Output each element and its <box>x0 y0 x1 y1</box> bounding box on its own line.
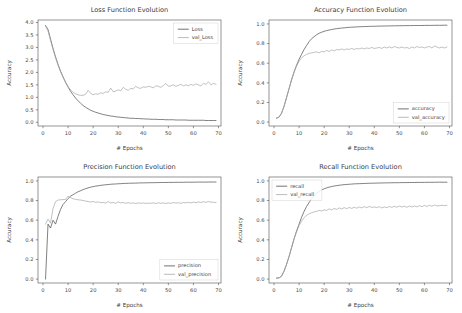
y-tick-label: 0.6 <box>256 217 264 223</box>
legend-label-val_accuracy: val_accuracy <box>412 114 445 121</box>
x-tick-label: 70 <box>215 130 222 136</box>
panel-recall: Recall Function Evolution010203040506070… <box>231 157 462 313</box>
chart-title: Precision Function Evolution <box>83 163 175 171</box>
legend-label-val_precision: val_precision <box>178 271 211 278</box>
x-tick-label: 0 <box>272 130 275 136</box>
x-tick-label: 60 <box>190 130 197 136</box>
legend-label-precision: precision <box>178 262 201 269</box>
y-axis-label: Accuracy <box>6 60 13 86</box>
x-axis-label: # Epochs <box>347 145 374 152</box>
x-tick-label: 20 <box>90 130 97 136</box>
y-tick-label: 0.2 <box>256 256 264 262</box>
y-tick-label: 1.0 <box>25 94 33 100</box>
x-tick-label: 30 <box>115 130 122 136</box>
y-tick-label: 0.4 <box>25 237 34 243</box>
legend: precisionval_precision <box>160 260 218 280</box>
y-tick-label: 0.2 <box>25 256 33 262</box>
legend-label-val_Loss: val_Loss <box>192 34 214 41</box>
x-tick-label: 0 <box>41 130 44 136</box>
x-tick-label: 50 <box>396 130 403 136</box>
x-tick-label: 50 <box>396 287 403 293</box>
chart-title: Loss Function Evolution <box>91 6 168 14</box>
x-tick-label: 40 <box>371 130 378 136</box>
x-tick-label: 60 <box>421 130 428 136</box>
y-tick-label: 3.0 <box>25 44 33 50</box>
x-tick-label: 60 <box>190 287 197 293</box>
y-tick-label: 0.0 <box>25 119 33 125</box>
chart-precision: Precision Function Evolution010203040506… <box>0 157 231 313</box>
x-tick-label: 40 <box>140 130 147 136</box>
y-tick-label: 0.0 <box>25 276 33 282</box>
x-tick-label: 30 <box>115 287 122 293</box>
y-tick-label: 0.0 <box>256 276 264 282</box>
y-tick-label: 0.8 <box>25 197 33 203</box>
y-tick-label: 1.0 <box>256 178 264 184</box>
y-tick-label: 3.5 <box>25 32 33 38</box>
y-tick-label: 0.5 <box>25 107 33 113</box>
legend: Lossval_Loss <box>174 23 218 43</box>
x-tick-label: 10 <box>296 130 303 136</box>
panel-precision: Precision Function Evolution010203040506… <box>0 157 231 313</box>
x-tick-label: 20 <box>321 287 328 293</box>
legend-label-accuracy: accuracy <box>412 105 435 112</box>
y-tick-label: 0.8 <box>256 40 264 46</box>
y-axis-label: Accuracy <box>237 60 244 86</box>
y-tick-label: 0.4 <box>256 80 265 86</box>
chart-title: Recall Function Evolution <box>319 163 402 171</box>
x-axis-label: # Epochs <box>116 302 143 309</box>
x-tick-label: 10 <box>65 287 72 293</box>
x-tick-label: 30 <box>346 130 353 136</box>
y-tick-label: 0.0 <box>256 119 264 125</box>
y-tick-label: 1.0 <box>256 21 264 27</box>
chart-loss: Loss Function Evolution0102030405060700.… <box>0 0 231 156</box>
x-tick-label: 0 <box>272 287 275 293</box>
x-tick-label: 40 <box>140 287 147 293</box>
y-tick-label: 2.5 <box>25 57 33 63</box>
legend-label-Loss: Loss <box>192 26 204 32</box>
x-tick-label: 70 <box>446 130 453 136</box>
y-tick-label: 0.8 <box>256 197 264 203</box>
x-tick-label: 10 <box>296 287 303 293</box>
y-tick-label: 1.0 <box>25 178 33 184</box>
x-tick-label: 50 <box>165 130 172 136</box>
y-tick-label: 0.4 <box>256 237 265 243</box>
panel-loss: Loss Function Evolution0102030405060700.… <box>0 0 231 156</box>
x-axis-label: # Epochs <box>347 302 374 309</box>
x-tick-label: 20 <box>321 130 328 136</box>
y-tick-label: 0.6 <box>25 217 33 223</box>
y-tick-label: 0.6 <box>256 60 264 66</box>
x-tick-label: 40 <box>371 287 378 293</box>
chart-recall: Recall Function Evolution010203040506070… <box>231 157 462 313</box>
x-tick-label: 0 <box>41 287 44 293</box>
legend: accuracyval_accuracy <box>394 103 449 123</box>
y-tick-label: 0.2 <box>256 99 264 105</box>
legend: recallval_recall <box>272 180 322 200</box>
legend-label-recall: recall <box>290 183 304 189</box>
panel-accuracy: Accuracy Function Evolution0102030405060… <box>231 0 462 156</box>
y-tick-label: 4.0 <box>25 19 33 25</box>
legend-label-val_recall: val_recall <box>290 191 314 198</box>
y-axis-label: Accuracy <box>237 217 244 243</box>
y-axis-label: Accuracy <box>6 217 13 243</box>
chart-title: Accuracy Function Evolution <box>314 6 407 14</box>
chart-accuracy: Accuracy Function Evolution0102030405060… <box>231 0 462 156</box>
metrics-figure: Loss Function Evolution0102030405060700.… <box>0 0 462 313</box>
x-tick-label: 70 <box>446 287 453 293</box>
x-tick-label: 30 <box>346 287 353 293</box>
x-tick-label: 60 <box>421 287 428 293</box>
y-tick-label: 1.5 <box>25 82 33 88</box>
x-tick-label: 50 <box>165 287 172 293</box>
x-tick-label: 10 <box>65 130 72 136</box>
series-val_precision <box>46 196 216 224</box>
x-tick-label: 70 <box>215 287 222 293</box>
y-tick-label: 2.0 <box>25 69 33 75</box>
x-axis-label: # Epochs <box>116 145 143 152</box>
x-tick-label: 20 <box>90 287 97 293</box>
